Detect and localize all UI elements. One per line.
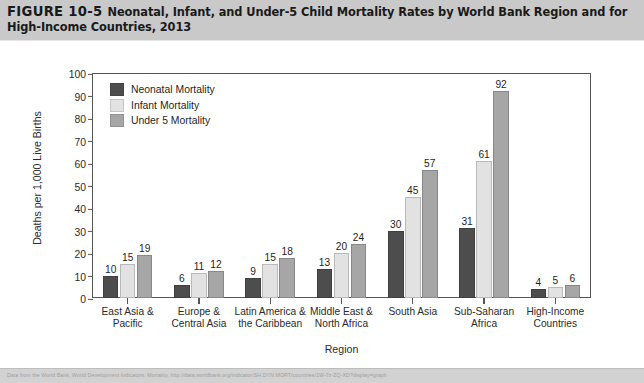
bar-under5[interactable]: 18 — [279, 73, 295, 298]
bar-rect — [422, 170, 438, 298]
bar-group: 304557 — [388, 73, 438, 298]
legend-swatch-neonatal — [110, 83, 124, 96]
x-axis-ticks — [92, 298, 591, 304]
bar-value-label: 45 — [407, 185, 418, 196]
x-tick-mark — [198, 298, 199, 304]
bar-value-label: 57 — [424, 158, 435, 169]
bar-neonatal[interactable]: 4 — [531, 73, 547, 298]
x-axis-category-label: High-IncomeCountries — [514, 306, 597, 330]
bar-under5[interactable]: 6 — [565, 73, 581, 298]
bar-under5[interactable]: 57 — [422, 73, 438, 298]
bar-value-label: 6 — [570, 273, 576, 284]
x-axis-labels: East Asia &PacificEurope &Central AsiaLa… — [92, 306, 591, 340]
legend-label-under5: Under 5 Mortality — [131, 115, 210, 126]
legend-swatch-under5 — [110, 114, 124, 127]
bar-infant[interactable]: 5 — [548, 73, 564, 298]
bar-rect — [191, 273, 207, 298]
bar-rect — [103, 276, 119, 299]
bar-value-label: 9 — [250, 266, 256, 277]
bar-value-label: 10 — [105, 264, 116, 275]
figure-caption: FIGURE 10-5Neonatal, Infant, and Under-5… — [7, 4, 634, 35]
bar-value-label: 6 — [179, 273, 185, 284]
legend-label-neonatal: Neonatal Mortality — [131, 84, 215, 95]
bar-rect — [388, 231, 404, 299]
legend-item-neonatal: Neonatal Mortality — [110, 83, 215, 96]
bar-infant[interactable]: 15 — [262, 73, 278, 298]
bar-rect — [405, 197, 421, 298]
legend-item-under5: Under 5 Mortality — [110, 114, 215, 127]
bar-rect — [531, 289, 547, 298]
figure-footer-band: Data from the World Bank, World Developm… — [0, 368, 644, 383]
chart-plot-area: Deaths per 1,000 Live Births 10090807060… — [0, 40, 644, 368]
bar-rect — [476, 161, 492, 298]
y-tick-label: 50 — [53, 181, 93, 192]
figure-header-band: FIGURE 10-5Neonatal, Infant, and Under-5… — [0, 0, 644, 40]
y-axis-title: Deaths per 1,000 Live Births — [31, 83, 43, 273]
bar-rect — [245, 278, 261, 298]
x-tick-mark — [341, 298, 342, 304]
bar-rect — [459, 228, 475, 298]
x-label-line: High-Income — [514, 306, 597, 318]
bar-value-label: 18 — [282, 246, 293, 257]
bar-value-label: 30 — [390, 219, 401, 230]
x-label-line: North Africa — [300, 318, 383, 330]
bar-rect — [208, 271, 224, 298]
bar-rect — [548, 287, 564, 298]
bar-value-label: 4 — [536, 277, 542, 288]
x-tick-mark — [483, 298, 484, 304]
y-tick-label: 10 — [53, 271, 93, 282]
bar-group: 456 — [531, 73, 581, 298]
bar-neonatal[interactable]: 31 — [459, 73, 475, 298]
bar-infant[interactable]: 20 — [334, 73, 350, 298]
legend-item-infant: Infant Mortality — [110, 99, 215, 112]
bar-neonatal[interactable]: 9 — [245, 73, 261, 298]
bar-rect — [262, 264, 278, 298]
y-tick-label: 100 — [53, 69, 93, 80]
bar-rect — [565, 285, 581, 299]
legend-swatch-infant — [110, 99, 124, 112]
bar-infant[interactable]: 61 — [476, 73, 492, 298]
bar-group: 316192 — [459, 73, 509, 298]
x-tick-mark — [127, 298, 128, 304]
y-tick-label: 90 — [53, 91, 93, 102]
bar-value-label: 31 — [461, 216, 472, 227]
bar-under5[interactable]: 92 — [493, 73, 509, 298]
bar-rect — [120, 264, 136, 298]
bar-value-label: 15 — [122, 252, 133, 263]
bar-rect — [137, 255, 153, 298]
bar-rect — [317, 269, 333, 298]
bar-rect — [334, 253, 350, 298]
bar-value-label: 5 — [553, 275, 559, 286]
bar-group: 91518 — [245, 73, 295, 298]
x-tick-mark — [555, 298, 556, 304]
bar-under5[interactable]: 24 — [351, 73, 367, 298]
bar-rect — [493, 91, 509, 298]
bar-value-label: 92 — [495, 79, 506, 90]
bar-neonatal[interactable]: 13 — [317, 73, 333, 298]
bar-value-label: 15 — [265, 252, 276, 263]
y-tick-label: 20 — [53, 249, 93, 260]
footer-divider — [0, 368, 644, 369]
bar-value-label: 12 — [210, 259, 221, 270]
bar-value-label: 11 — [194, 261, 205, 272]
bar-neonatal[interactable]: 30 — [388, 73, 404, 298]
x-tick-mark — [270, 298, 271, 304]
y-tick-label: 80 — [53, 114, 93, 125]
figure-container: FIGURE 10-5Neonatal, Infant, and Under-5… — [0, 0, 644, 383]
bar-value-label: 19 — [139, 243, 150, 254]
figure-body: Deaths per 1,000 Live Births 10090807060… — [0, 40, 644, 368]
y-tick-label: 60 — [53, 159, 93, 170]
y-tick-label: 40 — [53, 204, 93, 215]
x-tick-mark — [412, 298, 413, 304]
bar-value-label: 61 — [478, 149, 489, 160]
figure-source-note: Data from the World Bank, World Developm… — [7, 372, 387, 378]
bar-rect — [279, 258, 295, 299]
bar-value-label: 20 — [336, 241, 347, 252]
bar-group: 132024 — [317, 73, 367, 298]
bar-value-label: 24 — [353, 232, 364, 243]
bar-rect — [174, 285, 190, 299]
y-tick-label: 70 — [53, 136, 93, 147]
bar-infant[interactable]: 45 — [405, 73, 421, 298]
x-axis-title: Region — [92, 343, 591, 355]
y-tick-label: 30 — [53, 226, 93, 237]
